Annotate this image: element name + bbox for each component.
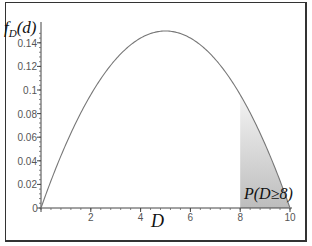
svg-text:0.02: 0.02 — [18, 179, 38, 190]
svg-text:0.04: 0.04 — [18, 156, 38, 167]
svg-text:0: 0 — [32, 203, 38, 214]
svg-text:0.06: 0.06 — [18, 132, 38, 143]
svg-text:0.14: 0.14 — [18, 38, 38, 49]
svg-text:8: 8 — [237, 212, 243, 223]
svg-text:0.12: 0.12 — [18, 61, 38, 72]
density-chart: 0246810 0.020.040.060.080.10.120.14 fD(d… — [0, 0, 312, 246]
y-tick-labels: 0.020.040.060.080.10.120.14 — [18, 38, 38, 191]
svg-text:2: 2 — [88, 212, 94, 223]
svg-text:10: 10 — [284, 212, 296, 223]
probability-annotation: P(D≥8) — [243, 185, 293, 203]
svg-text:4: 4 — [138, 212, 144, 223]
svg-text:0.08: 0.08 — [18, 109, 38, 120]
y-axis-label: fD(d) — [4, 18, 37, 39]
svg-text:6: 6 — [188, 212, 194, 223]
svg-text:0.1: 0.1 — [23, 85, 37, 96]
x-axis-label: D — [150, 211, 164, 231]
